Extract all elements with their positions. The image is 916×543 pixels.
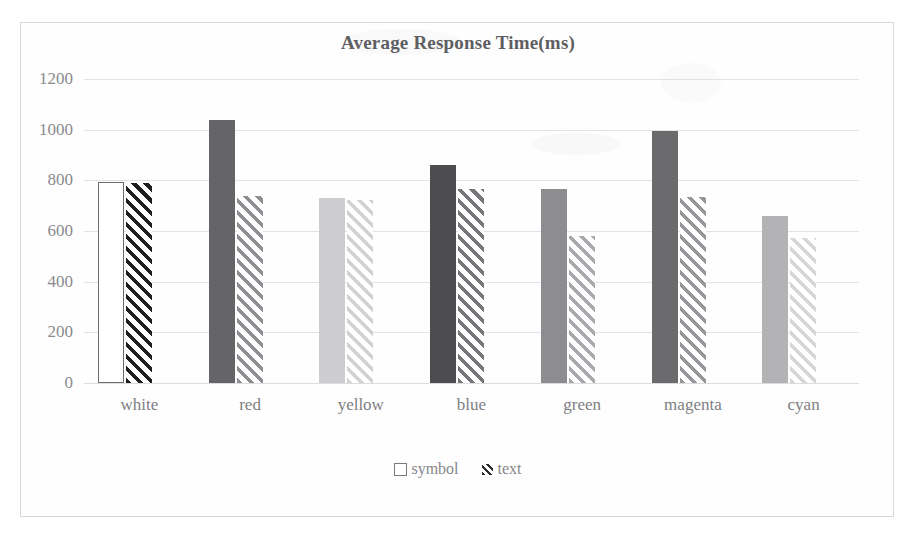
bar-yellow-symbol	[319, 198, 345, 383]
bar-blue-symbol	[430, 165, 456, 383]
y-tick-label-0: 0	[65, 373, 74, 393]
y-tick-label-200: 200	[48, 322, 74, 342]
bar-group-yellow: yellow	[305, 79, 416, 383]
chart-title: Average Response Time(ms)	[0, 32, 916, 54]
bar-green-symbol	[541, 189, 567, 383]
legend-label: text	[498, 460, 522, 478]
bar-magenta-text	[680, 197, 706, 383]
chart-legend: symboltext	[0, 460, 916, 478]
legend-item-text[interactable]: text	[481, 460, 522, 478]
bar-red-symbol	[209, 120, 235, 383]
bar-group-blue: blue	[416, 79, 527, 383]
x-tick-label-blue: blue	[416, 395, 527, 415]
bar-group-red: red	[195, 79, 306, 383]
hatched-square-marker	[481, 463, 494, 476]
x-tick-label-magenta: magenta	[638, 395, 749, 415]
bar-group-white: white	[84, 79, 195, 383]
bar-group-magenta: magenta	[638, 79, 749, 383]
bar-cyan-symbol	[762, 216, 788, 383]
y-tick-label-400: 400	[48, 272, 74, 292]
bar-magenta-symbol	[652, 131, 678, 383]
bars-layer: whiteredyellowbluegreenmagentacyan	[84, 79, 859, 383]
y-tick-label-1000: 1000	[39, 120, 73, 140]
bar-group-green: green	[527, 79, 638, 383]
bar-white-symbol	[98, 182, 124, 383]
bar-red-text	[237, 196, 263, 383]
bar-white-text	[126, 183, 152, 383]
bar-cyan-text	[790, 238, 816, 383]
bar-group-cyan: cyan	[748, 79, 859, 383]
legend-label: symbol	[411, 460, 458, 478]
x-tick-label-yellow: yellow	[305, 395, 416, 415]
gridline-0	[84, 383, 859, 384]
x-tick-label-cyan: cyan	[748, 395, 859, 415]
y-tick-label-800: 800	[48, 170, 74, 190]
plot-area: 020040060080010001200 whiteredyellowblue…	[84, 79, 859, 383]
open-square-marker	[394, 463, 407, 476]
y-tick-label-1200: 1200	[39, 69, 73, 89]
bar-blue-text	[458, 189, 484, 383]
x-tick-label-white: white	[84, 395, 195, 415]
y-tick-label-600: 600	[48, 221, 74, 241]
bar-yellow-text	[347, 200, 373, 383]
bar-green-text	[569, 236, 595, 383]
legend-item-symbol[interactable]: symbol	[394, 460, 458, 478]
x-tick-label-green: green	[527, 395, 638, 415]
x-tick-label-red: red	[195, 395, 306, 415]
